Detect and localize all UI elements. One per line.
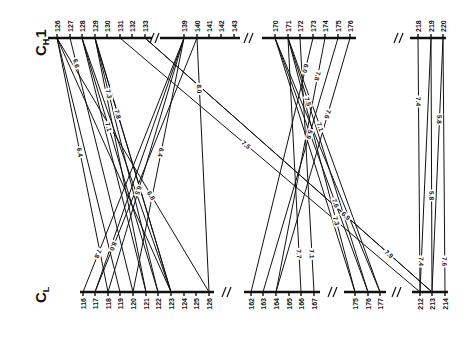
distance-label: 7.1 xyxy=(308,248,316,260)
residue-label: 139 xyxy=(181,20,188,32)
svg-text:5.8: 5.8 xyxy=(436,115,443,125)
residue-label: 173 xyxy=(310,20,317,32)
axis-break-icon xyxy=(394,33,398,43)
svg-text:7.1: 7.1 xyxy=(308,249,316,259)
residue-label: 131 xyxy=(117,20,124,32)
axis-break-icon xyxy=(392,287,396,297)
distance-label: 7.8 xyxy=(93,247,104,261)
residue-label: 220 xyxy=(440,20,447,32)
svg-text:7.8: 7.8 xyxy=(313,71,322,82)
distance-label: 7.3 xyxy=(104,87,114,100)
residue-label: 121 xyxy=(143,298,150,310)
residue-label: 132 xyxy=(129,20,136,32)
svg-text:7.7: 7.7 xyxy=(295,249,302,259)
residue-label: 130 xyxy=(104,20,111,32)
chain-label-cl: CL xyxy=(32,286,51,303)
residue-label: 174 xyxy=(322,20,329,32)
residue-label: 213 xyxy=(429,298,436,310)
distance-label: 7.6 xyxy=(330,196,341,210)
residue-label: 128 xyxy=(79,20,86,32)
residue-label: 162 xyxy=(248,298,255,310)
residue-label: 175 xyxy=(352,298,359,310)
distance-label: 7.4 xyxy=(418,255,426,267)
svg-text:7.6: 7.6 xyxy=(441,257,448,266)
residue-label: 176 xyxy=(347,20,354,32)
residue-label: 122 xyxy=(155,298,162,310)
distance-label: 5.8 xyxy=(436,113,444,125)
residue-label: 166 xyxy=(298,298,305,310)
chain-top-letter: C xyxy=(32,45,49,56)
axis-break-icon xyxy=(397,287,401,297)
residue-label: 126 xyxy=(54,20,61,32)
contact-line xyxy=(432,38,443,292)
residue-label: 129 xyxy=(92,20,99,32)
distance-label: 7.6 xyxy=(441,255,448,267)
residue-label: 119 xyxy=(117,298,124,309)
svg-text:5.8: 5.8 xyxy=(428,191,435,200)
residue-label: 116 xyxy=(80,298,87,309)
top-axis-ch1: 1261271281291301311321331391401411421431… xyxy=(48,20,447,43)
distance-label: 8.0 xyxy=(108,239,119,253)
residue-label: 176 xyxy=(365,298,372,310)
residue-label: 117 xyxy=(92,298,99,309)
contact-line xyxy=(95,38,184,292)
contact-line xyxy=(431,38,432,292)
contact-line xyxy=(120,38,420,292)
axis-break-icon xyxy=(222,287,226,297)
contact-line xyxy=(420,38,431,292)
svg-text:6.4: 6.4 xyxy=(76,147,85,158)
svg-text:CL: CL xyxy=(32,286,51,303)
distance-label: 7.5 xyxy=(303,95,313,109)
contact-line xyxy=(418,38,420,292)
residue-label: 123 xyxy=(168,298,175,310)
residue-label: 214 xyxy=(442,298,449,310)
residue-label: 218 xyxy=(415,20,422,32)
contact-line xyxy=(82,38,146,292)
axis-break-icon xyxy=(249,33,253,43)
axis-break-icon xyxy=(333,287,337,297)
axis-break-icon xyxy=(155,33,159,43)
distance-label: 8.0 xyxy=(196,83,204,95)
distance-label: 5.9 xyxy=(304,128,314,142)
chain-bottom-subscript: L xyxy=(41,286,51,292)
residue-label: 164 xyxy=(273,298,280,310)
contact-line xyxy=(251,38,313,292)
distance-label: 5.8 xyxy=(428,189,435,201)
distance-label: 7.4 xyxy=(415,95,422,107)
contact-line xyxy=(197,38,209,292)
svg-text:CH1: CH1 xyxy=(32,29,51,56)
residue-label: 143 xyxy=(231,20,238,32)
distance-label: 6.8 xyxy=(145,188,157,202)
contact-line xyxy=(57,38,209,292)
axis-break-icon xyxy=(244,33,248,43)
residue-label: 219 xyxy=(428,20,435,32)
svg-text:7.4: 7.4 xyxy=(418,257,425,267)
residue-label: 142 xyxy=(218,20,225,32)
contact-line xyxy=(133,38,184,292)
distance-label: 6.4 xyxy=(156,146,165,159)
chain-bottom-letter: C xyxy=(32,292,49,303)
residue-label: 163 xyxy=(260,298,267,310)
distance-label: 7.7 xyxy=(295,248,303,260)
contact-line xyxy=(95,38,197,292)
svg-text:8.0: 8.0 xyxy=(196,84,203,94)
distance-label: 6.4 xyxy=(75,146,84,159)
residue-label: 133 xyxy=(142,20,149,32)
chain-top-subscript: H xyxy=(41,39,51,46)
residue-label: 118 xyxy=(105,298,112,309)
chain-label-ch1: CH1 xyxy=(32,29,51,56)
residue-label: 120 xyxy=(130,298,137,310)
residue-label: 177 xyxy=(377,298,384,310)
axis-break-icon xyxy=(399,33,403,43)
svg-text:6.4: 6.4 xyxy=(157,147,166,158)
residue-label: 126 xyxy=(206,298,213,310)
contact-line xyxy=(443,38,445,292)
axis-break-icon xyxy=(227,287,231,297)
distance-label: 7.1 xyxy=(315,120,326,134)
chain-top-suffix: 1 xyxy=(32,29,49,37)
distance-label: 7.8 xyxy=(113,107,123,121)
residue-label: 212 xyxy=(417,298,424,310)
residue-label: 165 xyxy=(286,298,293,310)
bottom-axis-cl: 1161171181191201211221231241251261621631… xyxy=(80,287,449,310)
contact-line xyxy=(95,38,158,292)
